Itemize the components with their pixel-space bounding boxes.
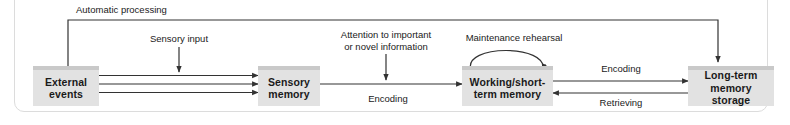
label-automatic-processing: Automatic processing [76,4,236,16]
diagram-canvas [0,0,790,125]
node-working-short-term-memory-label: Working/short- term memory [467,76,549,101]
label-encoding-working-to-longterm: Encoding [578,63,664,75]
label-attention: Attention to important or novel informat… [324,29,448,52]
label-maintenance-rehearsal: Maintenance rehearsal [449,32,579,44]
node-sensory-memory: Sensory memory [258,66,320,106]
memory-model-figure: External events Sensory memory Working/s… [0,0,790,125]
node-long-term-memory-storage-label: Long-term memory storage [688,69,774,107]
label-encoding-sensory-to-working: Encoding [338,93,438,105]
node-external-events: External events [33,66,99,106]
node-working-short-term-memory: Working/short- term memory [462,66,553,106]
node-sensory-memory-label: Sensory memory [265,76,313,101]
label-sensory-input: Sensory input [129,33,229,45]
node-long-term-memory-storage: Long-term memory storage [688,66,774,106]
label-retrieving: Retrieving [578,97,664,109]
node-external-events-label: External events [42,76,90,101]
